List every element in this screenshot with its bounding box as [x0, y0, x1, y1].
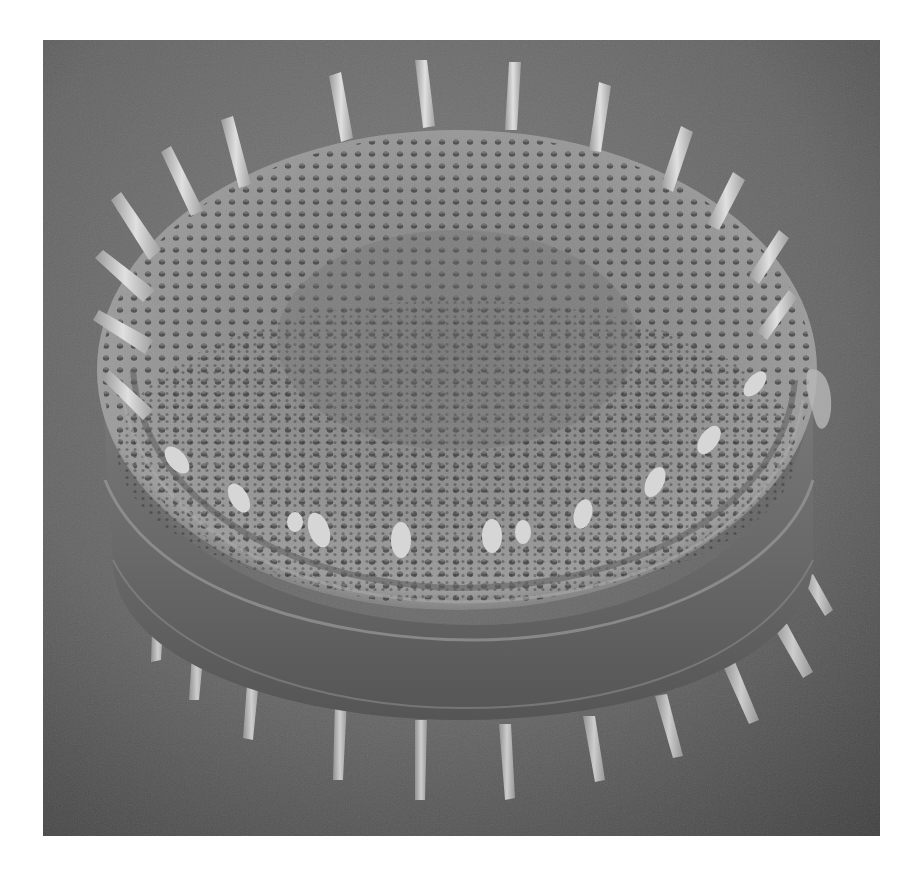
sem-micrograph — [43, 40, 880, 836]
diatom-illustration — [43, 40, 880, 836]
